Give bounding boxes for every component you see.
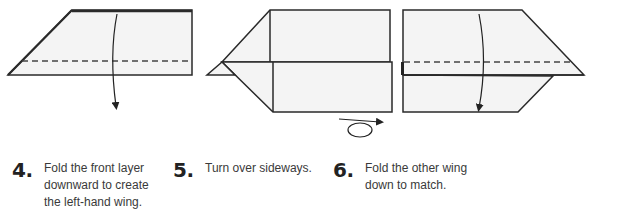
step-number: 6. [333,158,354,182]
step-instruction: Fold the other wing down to match. [365,160,477,194]
diagram-step-5 [207,10,392,137]
diagram-step-4 [8,10,192,106]
step-number: 4. [12,158,33,182]
folding-diagrams [0,0,619,150]
diagram-step-6 [401,10,584,112]
step-instruction: Fold the front layer downward to create … [44,160,162,211]
step-number: 5. [173,158,194,182]
turn-over-sideways-icon [339,119,380,137]
